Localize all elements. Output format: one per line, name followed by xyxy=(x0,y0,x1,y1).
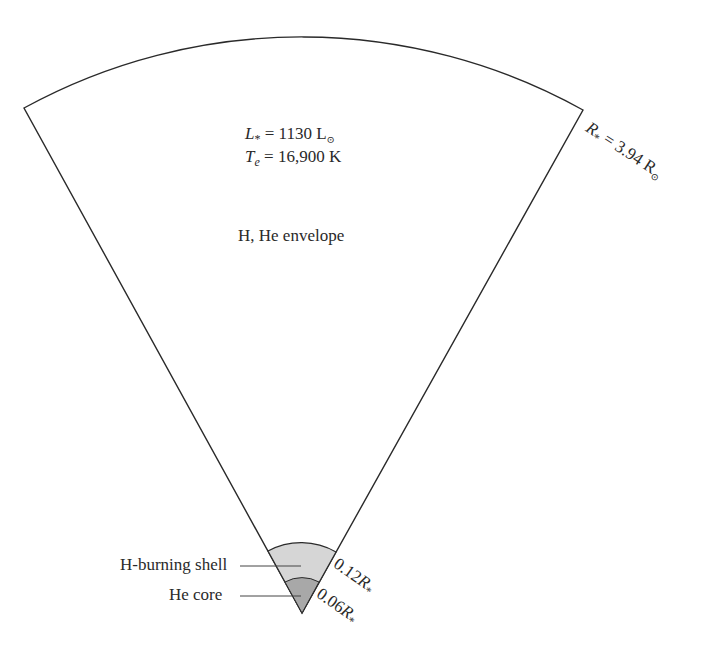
luminosity-subscript: * xyxy=(254,132,260,146)
temperature-value: = 16,900 K xyxy=(264,147,341,166)
he-core-region xyxy=(285,578,319,613)
luminosity-value: = 1130 L xyxy=(265,124,327,143)
temperature-label: Te = 16,900 K xyxy=(245,147,341,167)
h-burning-shell-label: H-burning shell xyxy=(120,555,227,575)
he-core-label: He core xyxy=(169,585,222,605)
envelope-label: H, He envelope xyxy=(238,226,344,246)
temperature-subscript: e xyxy=(254,155,259,169)
luminosity-label: L* = 1130 L⊙ xyxy=(245,124,335,144)
star-wedge-diagram xyxy=(0,0,709,650)
sun-symbol: ⊙ xyxy=(327,134,335,145)
